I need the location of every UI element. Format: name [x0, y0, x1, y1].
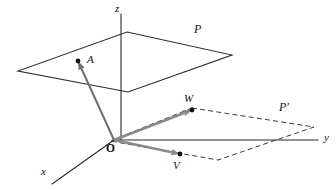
z-axis-label: z — [115, 3, 119, 14]
plane-p-prime-label: P' — [279, 101, 289, 113]
point-v-dot — [178, 152, 183, 157]
x-axis-line — [52, 140, 114, 184]
vector-ov-shaft — [114, 140, 172, 152]
plane-p-label: P — [194, 23, 201, 35]
diagram-canvas — [0, 0, 336, 190]
y-axis-label: y — [324, 132, 329, 143]
point-v-label: V — [173, 160, 180, 171]
plane-p-outline — [18, 32, 232, 92]
point-w-label: W — [184, 93, 193, 104]
point-dot-layer — [76, 59, 195, 157]
point-a-label: A — [87, 54, 94, 65]
point-w-dot — [190, 108, 195, 113]
vector-oa-shaft — [82, 69, 114, 140]
plane-p-prime-outline — [110, 108, 314, 160]
point-a-dot — [76, 59, 81, 64]
x-axis-label: x — [41, 166, 46, 177]
vector-ow-shaft — [114, 113, 184, 140]
vector-plane-diagram: z y x O A W V P P' — [0, 0, 336, 190]
origin-label: O — [106, 143, 115, 155]
